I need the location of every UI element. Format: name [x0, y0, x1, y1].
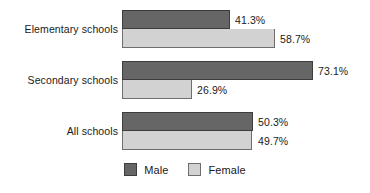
bar-value-female: 49.7% [258, 135, 288, 147]
legend-item-female[interactable]: Female [188, 163, 245, 176]
category-label: Elementary schools [25, 23, 118, 35]
legend-swatch-male-icon [124, 163, 137, 176]
legend-label-female: Female [208, 164, 245, 176]
bar-value-female: 58.7% [280, 33, 310, 45]
bar-value-male: 41.3% [235, 14, 265, 26]
category-label: All schools [67, 125, 118, 137]
legend-label-male: Male [144, 164, 168, 176]
bar-male[interactable] [122, 10, 230, 29]
legend-item-male[interactable]: Male [124, 163, 168, 176]
bar-group: Elementary schools 41.3% 58.7% [0, 10, 370, 48]
bar-female[interactable] [122, 131, 252, 150]
legend-swatch-female-icon [188, 163, 201, 176]
chart-legend: Male Female [0, 163, 370, 176]
bar-value-male: 50.3% [258, 116, 288, 128]
bar-value-female: 26.9% [197, 84, 227, 96]
plot-area: Elementary schools 41.3% 58.7% Secondary… [0, 0, 370, 160]
bar-female[interactable] [122, 80, 192, 99]
bar-male[interactable] [122, 112, 253, 131]
bar-group: Secondary schools 73.1% 26.9% [0, 61, 370, 99]
category-label: Secondary schools [28, 74, 118, 86]
bar-value-male: 73.1% [318, 65, 348, 77]
bar-female[interactable] [122, 29, 275, 48]
bar-male[interactable] [122, 61, 313, 80]
horizontal-bar-chart: Elementary schools 41.3% 58.7% Secondary… [0, 0, 370, 193]
bar-group: All schools 50.3% 49.7% [0, 112, 370, 150]
